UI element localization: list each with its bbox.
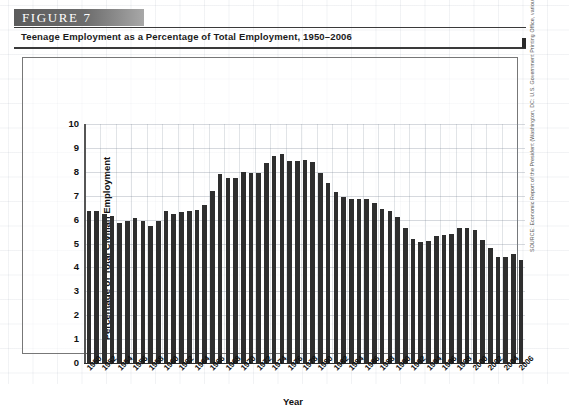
y-tick-label: 5 — [74, 239, 79, 249]
bar-slot — [263, 124, 271, 363]
bar-slot — [224, 124, 232, 363]
chart-frame: Percentage of Total Civilian Employment … — [22, 57, 518, 354]
bar-slot — [216, 124, 224, 363]
bar — [233, 178, 238, 363]
title-rule-top — [14, 27, 526, 28]
y-tick-label: 2 — [74, 310, 79, 320]
bar — [364, 199, 369, 363]
bar-slot — [309, 124, 317, 363]
bar — [465, 228, 470, 363]
bar — [318, 173, 323, 363]
bar — [156, 221, 161, 363]
bar — [133, 218, 138, 363]
bar — [195, 210, 200, 363]
bar-slot — [510, 124, 518, 363]
bar-slot — [286, 124, 294, 363]
title-rule-bottom — [14, 47, 526, 49]
bar-slot — [463, 124, 471, 363]
y-tick-label: 4 — [74, 263, 79, 273]
bar-slot — [471, 124, 479, 363]
y-tick-label: 7 — [74, 191, 79, 201]
bar — [496, 257, 501, 363]
bar — [202, 205, 207, 363]
bar-slot — [401, 124, 409, 363]
bar — [357, 199, 362, 363]
bar-slot — [363, 124, 371, 363]
bar — [272, 156, 277, 363]
bar-slot — [139, 124, 147, 363]
bar-slot — [494, 124, 502, 363]
bar — [210, 191, 215, 363]
bar-slot — [417, 124, 425, 363]
bar — [280, 154, 285, 363]
bar — [411, 239, 416, 363]
bar — [218, 174, 223, 363]
bar-slot — [378, 124, 386, 363]
y-tick-label: 0 — [74, 358, 79, 368]
bar-slot — [239, 124, 247, 363]
bar-slot — [394, 124, 402, 363]
bar — [310, 162, 315, 363]
bar-slot — [170, 124, 178, 363]
bar — [372, 203, 377, 363]
bar-slot — [278, 124, 286, 363]
bar-slot — [93, 124, 101, 363]
figure-subtitle: Teenage Employment as a Percentage of To… — [21, 31, 352, 42]
y-tick-label: 10 — [68, 119, 79, 129]
figure-banner-label: FIGURE 7 — [14, 10, 92, 26]
bar-slot — [154, 124, 162, 363]
bar — [388, 211, 393, 363]
source-note: SOURCE: Economic Report of the President… — [528, 122, 536, 252]
bar — [171, 214, 176, 363]
bar — [457, 228, 462, 363]
bar-slot — [124, 124, 132, 363]
bar-slot — [116, 124, 124, 363]
bar — [341, 197, 346, 363]
bar-slot — [332, 124, 340, 363]
bar — [148, 226, 153, 363]
bar — [87, 211, 92, 363]
bar — [164, 211, 169, 363]
bar-series — [85, 124, 525, 363]
title-end-marker — [522, 38, 526, 48]
plot-area: 012345678910 — [85, 124, 525, 363]
y-tick-label: 3 — [74, 287, 79, 297]
bar — [187, 211, 192, 363]
bar — [334, 192, 339, 363]
bar-slot — [270, 124, 278, 363]
bar-slot — [131, 124, 139, 363]
bar-slot — [147, 124, 155, 363]
bar-slot — [340, 124, 348, 363]
bar-slot — [209, 124, 217, 363]
bar-slot — [371, 124, 379, 363]
bar-slot — [432, 124, 440, 363]
bar-slot — [317, 124, 325, 363]
bar-slot — [185, 124, 193, 363]
bar-slot — [301, 124, 309, 363]
bar — [488, 248, 493, 363]
bar-slot — [347, 124, 355, 363]
bar — [94, 211, 99, 363]
x-axis-title: Year — [23, 396, 563, 407]
bar — [226, 178, 231, 363]
bar-slot — [193, 124, 201, 363]
bar — [125, 221, 130, 363]
bar — [264, 163, 269, 363]
bar-slot — [386, 124, 394, 363]
bar — [349, 199, 354, 363]
bar — [249, 173, 254, 363]
bar-slot — [85, 124, 93, 363]
bar-slot — [456, 124, 464, 363]
bar — [141, 221, 146, 363]
bar — [434, 236, 439, 363]
bar-slot — [440, 124, 448, 363]
bar — [287, 161, 292, 363]
bar — [503, 257, 508, 363]
bar — [511, 254, 516, 363]
bar — [395, 217, 400, 363]
bar — [110, 216, 115, 363]
bar-slot — [178, 124, 186, 363]
bar — [117, 223, 122, 363]
bar-slot — [201, 124, 209, 363]
bar — [380, 209, 385, 363]
